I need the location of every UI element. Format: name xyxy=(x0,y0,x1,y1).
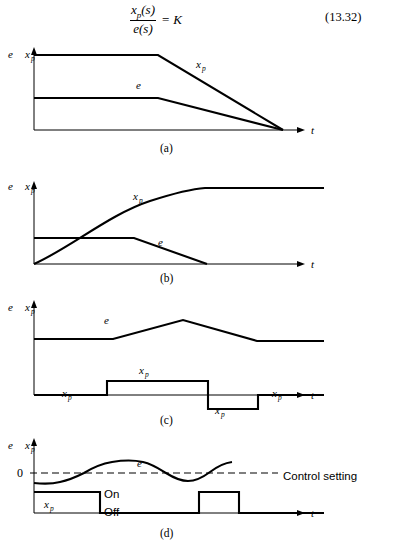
curve-e xyxy=(34,98,283,130)
xp-curve-label-sub: p xyxy=(201,64,206,73)
equation-expression: xp(s) e(s) = K xyxy=(128,3,182,37)
curve-xp xyxy=(34,55,283,130)
panel-b-plot: e x p t x p e (b) xyxy=(0,168,395,286)
fraction-numerator: xp(s) xyxy=(128,3,158,20)
xp-curve-label-right-sub: p xyxy=(277,393,282,402)
y-axis-label-e: e xyxy=(8,180,13,192)
y-axis-arrow xyxy=(31,181,37,189)
figure-page: xp(s) e(s) = K (13.32) e x p t x p xyxy=(0,0,395,542)
y-axis-label-xp: x xyxy=(24,48,30,60)
y-axis-label-xp: x xyxy=(24,439,30,451)
x-axis-arrow xyxy=(297,261,305,267)
panel-c-plot: e x p t e x p x p x p x p (c) xyxy=(0,296,395,426)
zero-label: 0 xyxy=(17,466,23,480)
e-curve-label: e xyxy=(136,79,141,91)
panel-b: e x p t x p e (b) xyxy=(0,168,395,286)
y-axis-arrow xyxy=(31,438,37,446)
curve-e xyxy=(34,320,324,341)
panel-b-caption: (b) xyxy=(160,272,174,285)
xp-curve-label-left-sub: p xyxy=(67,393,72,402)
e-curve-label: e xyxy=(137,457,142,469)
x-axis-arrow xyxy=(297,127,305,133)
equation-number: (13.32) xyxy=(325,10,361,25)
xp-curve-label-sub: p xyxy=(138,196,143,205)
panel-c-caption: (c) xyxy=(160,414,173,427)
panel-a-caption: (a) xyxy=(160,142,173,155)
xp-curve-label-top-sub: p xyxy=(144,370,149,379)
panel-d-caption: (d) xyxy=(160,527,174,540)
xp-curve-label-left: x xyxy=(61,387,67,399)
fraction-denominator: e(s) xyxy=(130,20,156,37)
xp-curve-label: x xyxy=(195,58,201,70)
xp-curve-label-top: x xyxy=(138,364,144,376)
control-setting-label: Control setting xyxy=(283,470,357,482)
on-label: On xyxy=(104,488,119,500)
y-axis-label-e: e xyxy=(8,439,13,451)
equals-sign: = xyxy=(162,12,169,28)
panel-d-plot: e x p t 0 e x p Control setting On Off (… xyxy=(0,436,395,542)
y-axis-arrow xyxy=(31,300,37,308)
panel-d: e x p t 0 e x p Control setting On Off (… xyxy=(0,436,395,542)
y-axis-label-xp: x xyxy=(24,180,30,192)
y-axis-label-xp: x xyxy=(24,301,30,313)
curve-xp-onoff xyxy=(34,492,324,513)
y-axis-label-e: e xyxy=(8,48,13,60)
x-axis-label: t xyxy=(311,124,315,136)
e-curve-label: e xyxy=(158,236,163,248)
panel-a: e x p t x p e (a) xyxy=(0,42,395,158)
equation-row: xp(s) e(s) = K (13.32) xyxy=(0,0,395,40)
off-label: Off xyxy=(104,506,120,518)
x-axis-label: t xyxy=(311,258,315,270)
y-axis-label-e: e xyxy=(8,301,13,313)
numerator-argument: (s) xyxy=(141,2,155,17)
xp-curve-label-low: x xyxy=(214,404,220,416)
curve-xp xyxy=(34,188,324,264)
e-curve-label: e xyxy=(104,314,109,326)
xp-curve-label: x xyxy=(43,498,49,510)
panel-c: e x p t e x p x p x p x p (c) xyxy=(0,296,395,426)
panel-a-plot: e x p t x p e (a) xyxy=(0,42,395,158)
equation-right-side: K xyxy=(173,12,182,28)
curve-e xyxy=(34,461,232,484)
xp-curve-label: x xyxy=(132,190,138,202)
xp-curve-label-low-sub: p xyxy=(220,410,225,419)
fraction: xp(s) e(s) xyxy=(128,3,158,37)
xp-curve-label-sub: p xyxy=(49,504,54,513)
denominator-argument: (s) xyxy=(139,21,153,36)
xp-curve-label-right: x xyxy=(271,387,277,399)
y-axis-arrow xyxy=(31,47,37,55)
